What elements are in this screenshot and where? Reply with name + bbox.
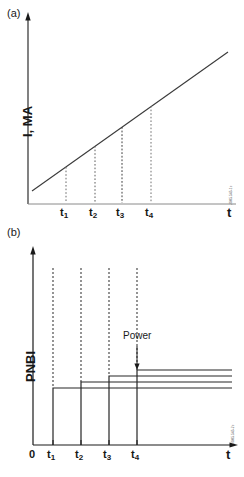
panel-a-tick-label-t4: t4: [145, 206, 153, 218]
panel-b-tick-label-t3: t3: [103, 448, 111, 460]
panel-b-plot: [0, 222, 244, 477]
panel-a-tick-label-t3: t3: [116, 206, 124, 218]
panel-b-step-t1: [53, 388, 232, 445]
figure-container: (a) I, MA t1 t2 t3 t4 t JG05.545-1c: [0, 0, 244, 477]
panel-b-step-t4: [137, 370, 232, 445]
panel-a-tick-label-t1: t1: [60, 206, 68, 218]
panel-b: (b) PNBI: [0, 222, 244, 477]
panel-b-tick-label-t2: t2: [75, 448, 83, 460]
panel-b-x-axis-label: t: [226, 447, 230, 462]
panel-a-x-axis-label: t: [227, 205, 231, 220]
panel-a-figure-credit: JG05.545-1c: [229, 186, 233, 205]
panel-b-figure-credit: JG05.545-2c: [231, 425, 235, 444]
panel-b-power-arrow-head: [134, 364, 139, 371]
panel-b-step-t3: [109, 376, 232, 445]
panel-b-tick-label-t1: t1: [47, 448, 55, 460]
panel-b-step-t2: [81, 382, 232, 445]
panel-a-tick-label-t2: t2: [89, 206, 97, 218]
panel-b-power-annotation: Power: [123, 330, 151, 341]
panel-b-y-axis-arrow: [30, 246, 35, 255]
panel-a-ramp-line: [32, 52, 228, 191]
panel-b-origin-label: 0: [29, 448, 35, 460]
panel-a-plot: [0, 0, 244, 228]
panel-b-tick-label-t4: t4: [131, 448, 139, 460]
panel-a: (a) I, MA t1 t2 t3 t4 t JG05.545-1c: [0, 0, 244, 228]
panel-a-y-axis-arrow: [25, 12, 30, 21]
